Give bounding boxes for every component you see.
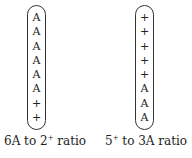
left-ion-column: A A A A A A + + [27,5,46,130]
symbol: A [33,12,41,23]
left-ratio-label: 6A to 2+ ratio [4,134,86,148]
symbol: A [33,26,41,37]
symbol: A [141,98,149,109]
label-text: 5 [105,134,113,148]
symbol: + [140,26,149,37]
symbol: A [33,41,41,52]
symbol: + [140,12,149,23]
label-text: to 3A ratio [119,134,188,148]
symbol: A [141,112,149,123]
right-ion-column: + + + + + A A A [135,5,154,130]
label-text: 6A to 2 [4,134,48,148]
symbol: + [32,98,41,109]
symbol: A [33,69,41,80]
symbol: A [141,83,149,94]
symbol: + [140,41,149,52]
label-text: ratio [54,134,87,148]
symbol: A [33,83,41,94]
symbol: + [32,112,41,123]
symbol: + [140,69,149,80]
symbol: A [33,55,41,66]
symbol: + [140,55,149,66]
right-ratio-label: 5+ to 3A ratio [105,134,187,148]
